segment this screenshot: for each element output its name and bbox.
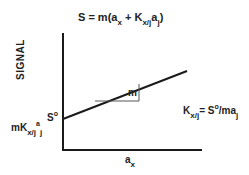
intercept-marker-base: S [47, 112, 54, 123]
intercept-sub-xj: x/j [27, 128, 36, 137]
signal-equation: S = m(ax + Kx/jaj) [78, 12, 163, 23]
intercept-a: a [36, 120, 40, 127]
intercept-sub-j: j [40, 128, 42, 137]
equation-sub-xj: x/j [142, 18, 151, 27]
equation-close: ) [160, 11, 164, 23]
calibration-diagram [0, 0, 249, 175]
slope-label: m [128, 88, 137, 98]
intercept-marker: So [47, 113, 58, 123]
intercept-expression: mKx/jaj [11, 123, 42, 133]
x-axis-label-sub: x [131, 160, 135, 169]
y-axis-label: SIGNAL [16, 39, 26, 80]
equation-lhs: S = m(a [78, 11, 117, 23]
k-equation: Kx/j= So/maj [183, 106, 238, 116]
equation-mid: + K [125, 11, 142, 23]
intercept-m: mK [11, 122, 27, 133]
equation-sub-x: x [117, 18, 121, 27]
k-eq-rest: /ma [219, 105, 236, 116]
equation-sub-j: j [157, 18, 159, 27]
k-eq-equals: = [199, 105, 205, 116]
x-axis-label: ax [125, 155, 135, 165]
signal-line [63, 71, 187, 119]
k-eq-sub-j: j [236, 111, 238, 120]
intercept-marker-sup: o [54, 110, 58, 117]
k-eq-sub-xj: x/j [190, 111, 199, 120]
x-axis-label-base: a [125, 154, 131, 165]
k-eq-sup-o: o [214, 103, 218, 110]
